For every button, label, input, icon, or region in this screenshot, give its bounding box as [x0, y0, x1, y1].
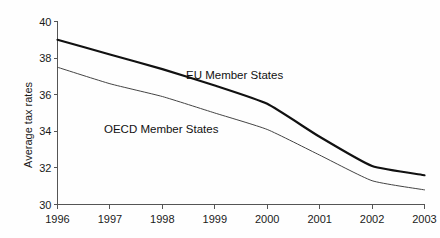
chart-series	[58, 40, 425, 190]
y-axis-tick-label: 38	[30, 52, 52, 64]
y-axis-title: Average tax rates	[22, 82, 34, 168]
x-axis-tick-label: 1999	[195, 213, 235, 225]
x-axis-tick-label: 2000	[247, 213, 287, 225]
chart-axes	[54, 22, 425, 209]
y-axis-tick-label: 30	[30, 199, 52, 211]
x-axis-tick-label: 2001	[300, 213, 340, 225]
x-axis-tick-label: 1996	[38, 213, 78, 225]
chart-container: 403836343230 199619971998199920002001200…	[0, 0, 440, 238]
series-line-eu	[58, 40, 425, 175]
x-axis-tick-label: 2003	[405, 213, 440, 225]
x-axis-tick-label: 1998	[142, 213, 182, 225]
line-chart-plot	[0, 0, 440, 238]
y-axis-tick-label: 40	[30, 16, 52, 28]
x-axis-tick-label: 2002	[352, 213, 392, 225]
series-label-eu-member-states: EU Member States	[186, 69, 283, 82]
x-axis-tick-label: 1997	[90, 213, 130, 225]
series-label-oecd-member-states: OECD Member States	[104, 123, 218, 136]
